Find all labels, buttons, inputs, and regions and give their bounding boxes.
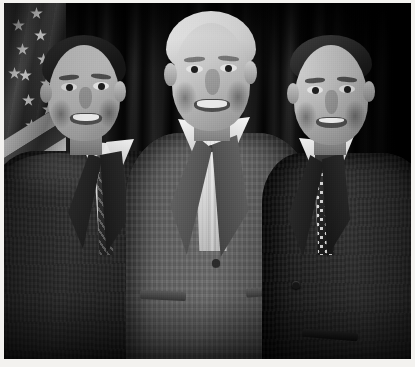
person-right-nose bbox=[325, 90, 338, 114]
person-left-teeth bbox=[73, 114, 99, 121]
person-left-pupil-right bbox=[98, 83, 105, 90]
person-center-ear-right bbox=[244, 61, 257, 84]
person-center-description: Older tall man with full white hair, rud… bbox=[124, 15, 125, 16]
person-right-ear-left bbox=[287, 83, 299, 104]
person-right-brow-left bbox=[305, 77, 325, 83]
person-right-jacket-button bbox=[292, 281, 300, 289]
person-left-nose bbox=[79, 87, 92, 109]
person-center-teeth bbox=[197, 100, 227, 108]
person-right-pupil-left bbox=[312, 87, 319, 94]
person-right-description: Man with close-cropped dark hair recedin… bbox=[266, 35, 267, 36]
person-center-ear-left bbox=[164, 63, 177, 86]
person-center-pupil-left bbox=[191, 66, 198, 73]
person-center-nose bbox=[205, 69, 220, 95]
person-right-brow-right bbox=[337, 76, 357, 83]
person-left-ear-left bbox=[40, 83, 52, 103]
person-right-teeth bbox=[319, 118, 344, 123]
photo-caption: Three men posing together for a group po… bbox=[0, 0, 1, 1]
person-center-brow-right bbox=[218, 55, 239, 62]
person-left-brow-right bbox=[91, 73, 111, 80]
person-right-pupil-right bbox=[344, 86, 351, 93]
person-center-cheek-shadow-left bbox=[173, 81, 197, 115]
person-center-jacket-button bbox=[212, 259, 220, 267]
person-right-cheek-shadow-left bbox=[295, 101, 317, 133]
person-right-cheek-shadow-right bbox=[344, 100, 366, 132]
person-left-cheek-shadow-left bbox=[50, 99, 72, 129]
person-right-ear-right bbox=[363, 81, 375, 102]
person-left-pupil-left bbox=[66, 84, 73, 91]
photograph-image: Younger man with short dark wavy hair, b… bbox=[4, 3, 411, 359]
photo-print-frame: Younger man with short dark wavy hair, b… bbox=[0, 0, 415, 367]
person-right: Man with close-cropped dark hair recedin… bbox=[266, 35, 411, 359]
person-center-cheek-shadow-right bbox=[226, 80, 250, 114]
person-center-brow-left bbox=[184, 56, 205, 62]
person-left-cheek-shadow-right bbox=[98, 98, 120, 128]
person-left-brow-left bbox=[59, 74, 79, 81]
person-center-pupil-right bbox=[225, 65, 232, 72]
